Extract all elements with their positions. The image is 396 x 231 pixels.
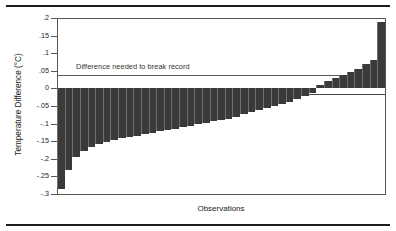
y-axis-tick <box>51 194 57 195</box>
y-axis-tick-label: -.3 <box>0 190 49 198</box>
bar <box>57 88 65 188</box>
bar <box>118 88 126 138</box>
bottom-rule <box>6 224 390 226</box>
bar <box>210 88 218 121</box>
y-axis-tick-label-text: 0 <box>45 84 49 92</box>
bar <box>133 88 141 135</box>
bar <box>194 88 202 124</box>
bar <box>293 88 301 99</box>
y-axis-tick-label-text: -.1 <box>41 120 49 128</box>
bar <box>263 88 271 108</box>
bar <box>72 88 80 157</box>
y-axis-tick-label: .05 <box>0 67 49 75</box>
y-axis-tick-label: -.15 <box>0 137 49 145</box>
bar <box>271 88 279 106</box>
right-axis-line <box>385 18 386 194</box>
bar <box>149 88 157 132</box>
y-axis-title: Temperature Difference (°C) <box>14 25 23 185</box>
bar <box>324 81 332 89</box>
top-rule <box>6 5 390 7</box>
y-axis-tick-label-text: -.15 <box>37 137 49 145</box>
bar <box>80 88 88 151</box>
bar <box>339 75 347 88</box>
y-axis-tick-label-text: -.2 <box>41 155 49 163</box>
bar <box>171 88 179 128</box>
y-axis-tick-label: 0 <box>0 84 49 92</box>
bar <box>156 88 164 131</box>
bar <box>202 88 210 122</box>
bar-series <box>57 18 385 194</box>
bar <box>164 88 172 130</box>
bar <box>179 88 187 127</box>
y-axis-tick-label-text: .15 <box>39 32 49 40</box>
bar <box>377 22 385 89</box>
bar <box>248 88 256 112</box>
bar <box>65 88 73 170</box>
bar <box>286 88 294 101</box>
bar <box>141 88 149 134</box>
y-axis-tick-label-text: .2 <box>43 14 49 22</box>
bar <box>354 69 362 88</box>
bar <box>332 78 340 89</box>
y-axis-tick-label: -.05 <box>0 102 49 110</box>
bar <box>301 88 309 96</box>
y-axis-tick-label-text: .1 <box>43 49 49 57</box>
bar <box>88 88 96 146</box>
bar <box>95 88 103 144</box>
y-axis-tick-label: .2 <box>0 14 49 22</box>
y-axis-tick-label: -.25 <box>0 172 49 180</box>
y-axis-tick-label: -.2 <box>0 155 49 163</box>
bar <box>347 72 355 88</box>
bar <box>362 64 370 88</box>
y-axis-tick-label-text: -.3 <box>41 190 49 198</box>
bar <box>217 88 225 120</box>
y-axis-tick-label-text: -.25 <box>37 172 49 180</box>
y-axis-tick-label-text: .05 <box>39 67 49 75</box>
bar <box>187 88 195 125</box>
figure: .2.15.1.050-.05-.1-.15-.2-.25-.3 Differe… <box>0 0 396 231</box>
bar <box>110 88 118 140</box>
y-axis-tick-label: -.1 <box>0 120 49 128</box>
bar <box>225 88 233 118</box>
bar <box>278 88 286 103</box>
y-axis-tick-label-text: -.05 <box>37 102 49 110</box>
bar <box>232 88 240 116</box>
bar <box>126 88 134 137</box>
y-axis-tick-label: .1 <box>0 49 49 57</box>
y-axis-tick-label: .15 <box>0 32 49 40</box>
bar <box>309 88 317 92</box>
bar <box>316 85 324 89</box>
bar <box>370 60 378 88</box>
bar <box>103 88 111 142</box>
x-axis-title: Observations <box>57 204 385 213</box>
bottom-axis-line <box>57 194 386 195</box>
bar <box>255 88 263 110</box>
bar <box>240 88 248 114</box>
